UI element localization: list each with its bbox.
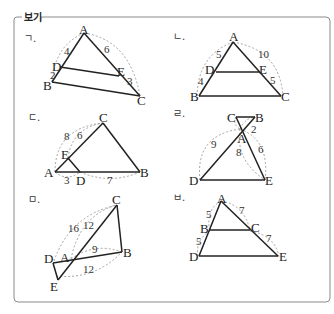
- length-label: 9: [92, 243, 98, 255]
- point-label: E: [265, 173, 273, 188]
- length-label: 6: [77, 129, 83, 141]
- length-label: 12: [83, 219, 94, 231]
- point-label: A: [217, 191, 227, 206]
- figure-tag: ㅁ.: [28, 194, 40, 205]
- point-label: C: [99, 110, 108, 125]
- segment: [52, 33, 84, 82]
- length-label: 8: [236, 146, 242, 158]
- figure-bieup: ㅂ. A B C D E 5 5 7 7: [173, 191, 287, 264]
- length-label: 4: [198, 75, 204, 87]
- figure-tag: ㄱ.: [24, 33, 36, 44]
- length-label: 6: [104, 43, 110, 55]
- length-label: 10: [258, 48, 270, 60]
- length-label: 5: [270, 74, 276, 86]
- point-label: A: [79, 22, 89, 37]
- length-label: 3: [64, 174, 70, 186]
- point-label: E: [117, 64, 125, 79]
- figure-rieul: ㄹ. C B A D E 2 9 6 8: [173, 108, 273, 188]
- box-title: 보기: [24, 11, 42, 23]
- point-label: B: [190, 89, 199, 104]
- length-label: 3: [127, 75, 133, 87]
- length-label: 2: [251, 123, 257, 135]
- length-arc: [200, 129, 241, 180]
- example-box: 보기 ㄱ. A D B E C 4 2 6 3 ㄴ. A D B E C 5 4…: [0, 0, 334, 314]
- length-label: 12: [83, 263, 94, 275]
- length-label: 7: [107, 174, 113, 186]
- point-label: C: [112, 192, 121, 207]
- point-label: C: [137, 93, 146, 108]
- length-label: 2: [50, 69, 56, 81]
- point-label: B: [140, 165, 149, 180]
- figure-digeut: ㄷ. C E A D B 8 6 3 7: [28, 110, 149, 188]
- figure-tag: ㄴ.: [173, 31, 185, 42]
- point-label: A: [229, 29, 239, 44]
- length-label: 5: [196, 235, 202, 247]
- figure-tag: ㅂ.: [173, 192, 185, 203]
- figure-mieum: ㅁ. C B A D E 16 12 9 12: [28, 192, 132, 294]
- point-label: E: [50, 279, 58, 294]
- point-label: B: [200, 221, 209, 236]
- segment: [103, 123, 140, 172]
- point-label: A: [237, 131, 247, 146]
- length-label: 8: [64, 130, 70, 142]
- segment: [53, 263, 58, 280]
- segment: [221, 201, 278, 256]
- segment: [14, 17, 22, 30]
- segment: [200, 117, 255, 180]
- segment: [68, 158, 80, 172]
- length-label: 5: [216, 48, 222, 60]
- length-label: 6: [258, 143, 264, 155]
- figure-nieun: ㄴ. A D B E C 5 4 10 5: [173, 29, 290, 104]
- point-label: D: [44, 251, 53, 266]
- point-label: C: [227, 110, 236, 125]
- point-label: C: [281, 89, 290, 104]
- length-label: 4: [64, 45, 70, 57]
- point-label: A: [60, 250, 70, 265]
- point-label: A: [44, 165, 54, 180]
- length-label: 7: [266, 232, 272, 244]
- point-label: D: [205, 62, 214, 77]
- point-label: D: [189, 249, 198, 264]
- point-label: E: [61, 147, 69, 162]
- segment: [117, 205, 122, 252]
- length-label: 9: [211, 138, 217, 150]
- length-label: 5: [206, 208, 212, 220]
- figure-tag: ㄷ.: [28, 112, 40, 123]
- point-label: E: [259, 62, 267, 77]
- point-label: B: [123, 245, 132, 260]
- figure-tag: ㄹ.: [173, 108, 185, 119]
- point-label: E: [279, 249, 287, 264]
- length-label: 7: [239, 204, 245, 216]
- point-label: D: [189, 173, 198, 188]
- segment: [60, 67, 119, 76]
- figure-giyeok: ㄱ. A D B E C 4 2 6 3: [24, 22, 146, 108]
- point-label: C: [251, 220, 260, 235]
- point-label: D: [76, 173, 85, 188]
- length-label: 16: [68, 222, 80, 234]
